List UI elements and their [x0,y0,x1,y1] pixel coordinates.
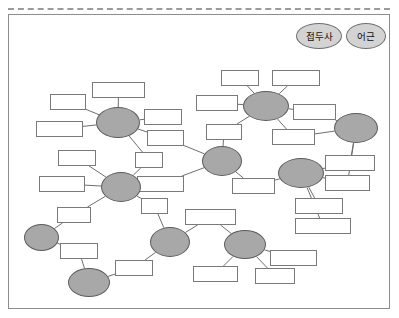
word-box-perception[interactable] [295,218,351,234]
word-box-export[interactable] [115,260,153,276]
word-box-initial[interactable] [57,207,91,223]
root-node-con[interactable] [334,113,378,143]
word-box-contain[interactable] [293,104,336,120]
legend-pill-1: 어근 [346,23,386,49]
edge-tain-detain [247,86,254,93]
word-box-conceive[interactable] [325,155,375,171]
word-box-evacuate[interactable] [185,209,236,225]
diagram-canvas: 접두사어근 [0,0,399,318]
edge-tain-retain [237,116,249,124]
edge-vis-envision [83,125,96,126]
edge-it-visit [133,168,140,175]
root-node-port[interactable] [68,268,110,297]
word-box-visible[interactable] [144,109,182,125]
edge-vac-evacuate [221,225,232,234]
word-box-vacant[interactable] [255,268,295,284]
edge-tain-maintain [279,86,287,94]
edge-vis-vision [86,109,99,114]
edge-vac-vacant [257,257,268,268]
word-box-reiterate[interactable] [137,176,184,192]
word-box-content[interactable] [272,129,315,145]
word-box-exit[interactable] [141,198,168,214]
root-node-tain[interactable] [243,91,289,121]
root-node-in[interactable] [24,224,59,251]
word-box-itinerary[interactable] [39,176,85,192]
word-box-envision[interactable] [36,121,83,137]
word-box-receive[interactable] [232,178,275,194]
word-box-vision[interactable] [50,94,86,110]
edge-ex-exit [158,214,164,228]
word-box-concept[interactable] [325,175,370,191]
edge-it-itinerary [85,185,101,186]
edge-re-revisit [184,146,204,154]
root-node-it[interactable] [101,172,141,202]
word-box-supervise[interactable] [92,82,145,98]
edge-ex-export [145,252,156,260]
edge-in-initial [55,223,63,228]
root-node-vis[interactable] [96,107,140,138]
word-box-detain[interactable] [221,70,259,86]
edge-vis-revisit [138,129,147,132]
edge-vis-visit [129,136,142,152]
word-box-import[interactable] [60,243,98,259]
root-node-re[interactable] [202,146,242,176]
edge-port-import [82,259,85,268]
legend-pill-0: 접두사 [296,23,342,49]
word-box-vacation[interactable] [270,250,317,266]
word-box-sustain[interactable] [196,95,238,111]
edge-vac-vacuum [224,256,234,266]
root-node-vac[interactable] [224,230,266,259]
edge-re-reiterate [182,168,204,176]
edge-it-transit [89,166,106,177]
edge-port-export [108,274,115,276]
word-box-visit[interactable] [135,152,163,168]
word-box-transit[interactable] [58,150,96,166]
edge-con-content [315,131,334,134]
word-box-vacuum[interactable] [193,266,238,282]
edge-it-initial [87,196,105,207]
word-box-perceive[interactable] [295,198,343,214]
edge-tain-content [278,119,287,129]
edge-ex-evacuate [185,225,197,232]
word-box-revisit[interactable] [147,130,184,146]
word-box-retain[interactable] [206,124,242,140]
root-node-ex[interactable] [150,227,190,257]
word-box-maintain[interactable] [272,70,320,86]
root-node-ceive[interactable] [278,158,324,188]
